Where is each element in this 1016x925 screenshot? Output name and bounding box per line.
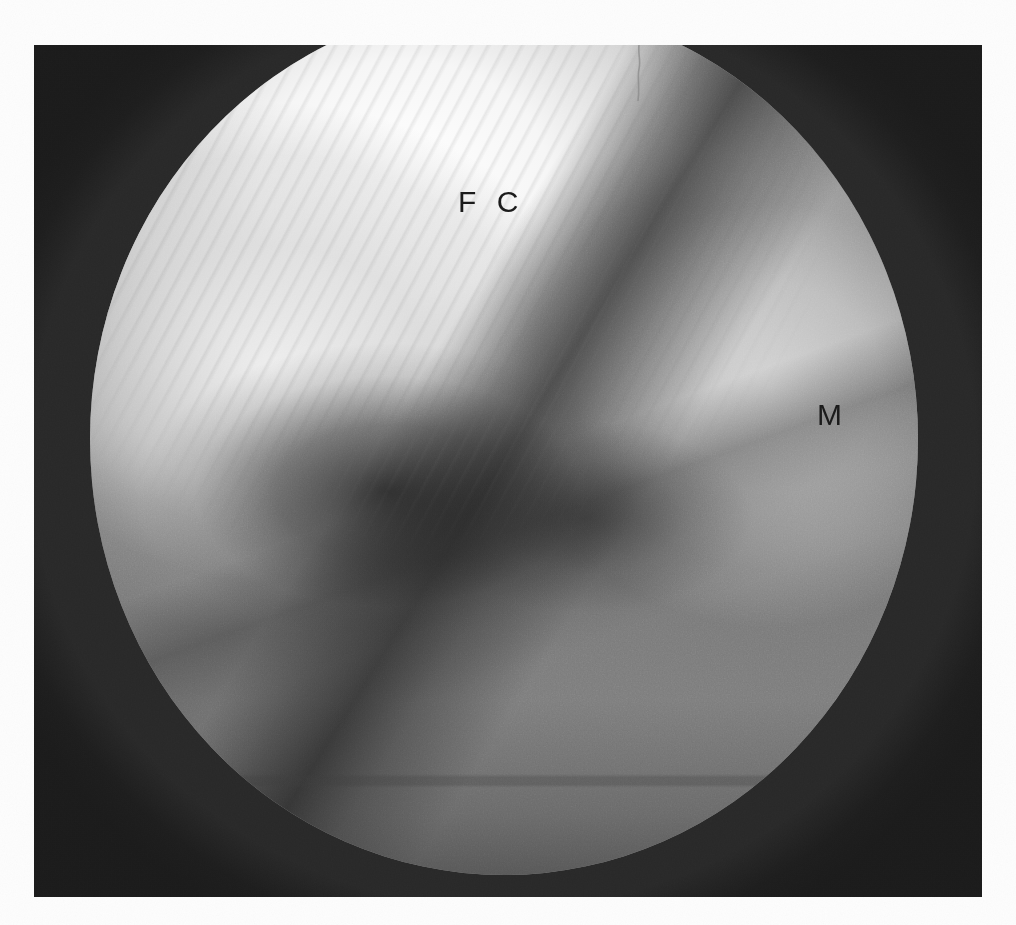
scope-field-of-view bbox=[90, 45, 918, 875]
page-background: F C M bbox=[0, 0, 1016, 925]
label-femoral-condyle: F C bbox=[458, 187, 524, 217]
arthroscopic-photograph: F C M bbox=[34, 45, 982, 897]
scanline-artifact bbox=[90, 45, 918, 875]
label-meniscus: M bbox=[817, 400, 843, 430]
